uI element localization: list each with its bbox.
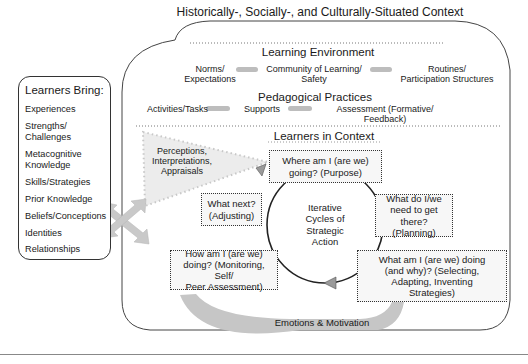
center-line: Iterative xyxy=(296,202,354,213)
step-line: Adapting, Inventing xyxy=(379,276,486,287)
item-line: Identities xyxy=(25,228,62,239)
item-line: Relationships xyxy=(25,244,80,255)
participation-line: Participation Structures xyxy=(392,74,502,84)
learners-bring-title: Learners Bring: xyxy=(25,84,104,96)
routines-line: Routines/ xyxy=(392,64,502,74)
activities-tasks: Activities/Tasks xyxy=(147,104,208,114)
item-identities: Identities xyxy=(25,228,62,239)
supports: Supports xyxy=(244,104,280,114)
step-line: Strategies) xyxy=(379,287,486,298)
step-line: (and why)? (Selecting, xyxy=(379,265,486,276)
feedback-line: Feedback) xyxy=(320,114,450,124)
perceptions-label: Perceptions, Interpretations, Appraisals xyxy=(146,146,218,176)
item-strengths-challenges: Strengths/ Challenges xyxy=(25,121,71,142)
step-line: What next? xyxy=(207,198,255,209)
step-adjusting: What next? (Adjusting) xyxy=(201,193,262,226)
item-line: Experiences xyxy=(25,104,76,115)
center-line: Strategic xyxy=(296,225,354,236)
context-title: Historically-, Socially-, and Culturally… xyxy=(175,6,465,19)
item-line: Strengths/ xyxy=(25,121,71,132)
item-line: Challenges xyxy=(25,132,71,143)
step-planning: What do I/we need to get there? (Plannin… xyxy=(375,194,453,237)
step-line: Peer Assessment) xyxy=(174,281,274,292)
step-line: What am I (are we) doing xyxy=(379,254,486,265)
expectations-line: Expectations xyxy=(180,74,240,84)
emotions-motivation-label: Emotions & Motivation xyxy=(262,318,382,329)
step-line: doing? (Monitoring, Self/ xyxy=(174,259,274,281)
learners-in-context-heading: Learners in Context xyxy=(262,130,386,143)
step-line: there? (Planning) xyxy=(379,216,449,238)
pedagogical-practices-heading: Pedagogical Practices xyxy=(250,91,380,104)
norms-expectations: Norms/ Expectations xyxy=(180,64,240,84)
item-prior-knowledge: Prior Knowledge xyxy=(25,194,92,205)
step-line: need to get xyxy=(379,204,449,215)
interpretations-line: Interpretations, xyxy=(146,156,218,166)
item-skills-strategies: Skills/Strategies xyxy=(25,177,90,188)
item-line: Skills/Strategies xyxy=(25,177,90,188)
assessment-feedback: Assessment (Formative/ Feedback) xyxy=(320,104,450,124)
item-experiences: Experiences xyxy=(25,104,76,115)
item-line: Metacognitive xyxy=(25,149,82,160)
step-line: going? (Purpose) xyxy=(282,167,369,178)
center-line: Cycles of xyxy=(296,213,354,224)
item-metacognitive-knowledge: Metacognitive Knowledge xyxy=(25,149,82,170)
step-line: What do I/we xyxy=(379,193,449,204)
center-line: Action xyxy=(296,236,354,247)
community-line: Community of Learning/ xyxy=(258,64,370,74)
learning-environment-heading: Learning Environment xyxy=(253,46,383,59)
step-line: (Adjusting) xyxy=(207,210,255,221)
item-line: Beliefs/Conceptions xyxy=(25,211,106,222)
appraisals-line: Appraisals xyxy=(146,166,218,176)
norms-line: Norms/ xyxy=(180,64,240,74)
item-line: Prior Knowledge xyxy=(25,194,92,205)
step-line: How am I (are we) xyxy=(174,248,274,259)
step-purpose: Where am I (are we) going? (Purpose) xyxy=(269,150,382,183)
item-relationships: Relationships xyxy=(25,244,80,255)
safety-line: Safety xyxy=(258,74,370,84)
step-monitoring: How am I (are we) doing? (Monitoring, Se… xyxy=(170,250,278,290)
item-beliefs-conceptions: Beliefs/Conceptions xyxy=(25,211,106,222)
perceptions-line: Perceptions, xyxy=(146,146,218,156)
assessment-line: Assessment (Formative/ xyxy=(320,104,450,114)
bottom-rule xyxy=(0,354,528,355)
routines-participation: Routines/ Participation Structures xyxy=(392,64,502,84)
step-selecting: What am I (are we) doing (and why)? (Sel… xyxy=(357,250,507,302)
learners-bring-panel: Learners Bring: Experiences Strengths/ C… xyxy=(18,76,111,260)
item-line: Knowledge xyxy=(25,160,82,171)
community-of-learning: Community of Learning/ Safety xyxy=(258,64,370,84)
step-line: Where am I (are we) xyxy=(282,155,369,166)
cycle-center-label: Iterative Cycles of Strategic Action xyxy=(296,202,354,248)
